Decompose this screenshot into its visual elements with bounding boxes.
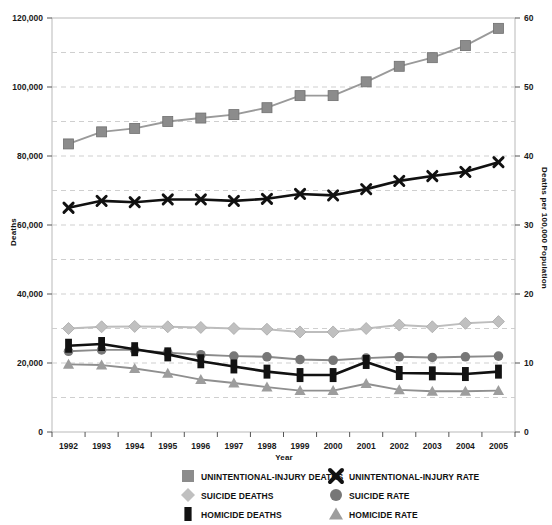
y-axis-tick-label: 0: [38, 427, 43, 437]
y-axis-tick-label: 60,000: [17, 220, 43, 230]
legend-marker-circle: [330, 489, 342, 501]
y2-axis-tick-label: 0: [524, 427, 529, 437]
data-point: [462, 367, 469, 381]
y-axis-tick-label: 80,000: [17, 151, 43, 161]
data-point: [295, 355, 305, 365]
data-point: [230, 359, 237, 373]
data-point: [493, 23, 503, 33]
legend-label: HOMICIDE DEATHS: [201, 510, 282, 520]
data-point: [97, 127, 107, 137]
y2-axis-tick-label: 60: [524, 13, 534, 23]
legend-item[interactable]: UNINTENTIONAL-INJURY DEATHS: [182, 470, 344, 482]
legend-item[interactable]: UNINTENTIONAL-INJURY RATE: [330, 470, 480, 482]
x-axis-tick-label: 1996: [191, 441, 210, 451]
y-axis-left-ticks: 020,00040,00060,00080,000100,000120,000: [12, 13, 52, 437]
y-axis-tick-label: 40,000: [17, 289, 43, 299]
y2-axis-tick-label: 50: [524, 82, 534, 92]
data-point: [330, 368, 337, 382]
legend-item[interactable]: SUICIDE DEATHS: [181, 488, 274, 502]
y-axis-tick-label: 20,000: [17, 358, 43, 368]
x-axis-tick-label: 2004: [456, 441, 475, 451]
data-point: [64, 139, 74, 149]
x-axis-tick-label: 2000: [324, 441, 343, 451]
x-axis-tick-label: 2001: [357, 441, 376, 451]
data-point: [394, 352, 404, 362]
data-point: [396, 366, 403, 380]
legend-label: SUICIDE DEATHS: [201, 491, 274, 501]
legend-label: HOMICIDE RATE: [349, 510, 418, 520]
legend-item[interactable]: HOMICIDE RATE: [329, 508, 418, 521]
x-axis-tick-label: 1993: [92, 441, 111, 451]
x-axis-tick-label: 1995: [158, 441, 177, 451]
data-point: [98, 337, 105, 351]
data-point: [197, 354, 204, 368]
legend-marker-bar: [184, 507, 191, 521]
plot-background: [52, 18, 515, 432]
y2-axis-tick-label: 20: [524, 289, 534, 299]
legend-item[interactable]: SUICIDE RATE: [330, 489, 410, 501]
data-point: [295, 91, 305, 101]
data-point: [427, 53, 437, 63]
data-point: [328, 355, 338, 365]
data-point: [229, 110, 239, 120]
legend-marker-triangle: [329, 508, 343, 520]
data-point: [131, 342, 138, 356]
data-point: [328, 91, 338, 101]
y2-axis-tick-label: 40: [524, 151, 534, 161]
legend-marker-square: [182, 470, 194, 482]
y2-axis-tick-label: 30: [524, 220, 534, 230]
data-point: [164, 347, 171, 361]
data-point: [495, 365, 502, 379]
data-point: [361, 77, 371, 87]
y-axis-right-title: Deaths per 100,000 Population: [540, 167, 549, 289]
x-axis-tick-label: 1992: [59, 441, 78, 451]
data-point: [494, 351, 504, 361]
data-point: [460, 41, 470, 51]
x-axis-title: Year: [275, 453, 293, 462]
data-point: [428, 353, 438, 363]
chart-canvas: 020,00040,00060,00080,000100,000120,000 …: [0, 0, 552, 525]
chart-legend: UNINTENTIONAL-INJURY DEATHSSUICIDE DEATH…: [181, 470, 480, 521]
data-point: [262, 352, 272, 362]
data-point: [262, 103, 272, 113]
data-point: [363, 355, 370, 369]
data-point: [297, 368, 304, 382]
data-point: [461, 352, 471, 362]
data-point: [196, 113, 206, 123]
x-axis-tick-label: 2003: [423, 441, 442, 451]
data-point: [163, 117, 173, 127]
data-point: [394, 61, 404, 71]
data-point: [264, 365, 271, 379]
x-axis-tick-label: 2002: [390, 441, 409, 451]
chart-container: 020,00040,00060,00080,000100,000120,000 …: [0, 0, 552, 525]
x-axis-tick-label: 1997: [224, 441, 243, 451]
data-point: [429, 366, 436, 380]
y-axis-tick-label: 120,000: [12, 13, 43, 23]
x-axis-tick-label: 1999: [291, 441, 310, 451]
legend-label: UNINTENTIONAL-INJURY RATE: [349, 472, 480, 482]
x-axis-tick-label: 2005: [489, 441, 508, 451]
legend-marker-diamond: [181, 488, 195, 502]
x-axis-ticks: 1992199319941995199619971998199920002001…: [52, 432, 515, 451]
legend-label: SUICIDE RATE: [349, 491, 410, 501]
data-point: [130, 123, 140, 133]
y-axis-tick-label: 100,000: [12, 82, 43, 92]
x-axis-tick-label: 1998: [258, 441, 277, 451]
y-axis-right-ticks: 0102030405060: [515, 13, 534, 437]
data-point: [65, 339, 72, 353]
y2-axis-tick-label: 10: [524, 358, 534, 368]
legend-item[interactable]: HOMICIDE DEATHS: [184, 507, 282, 521]
legend-label: UNINTENTIONAL-INJURY DEATHS: [201, 472, 344, 482]
y-axis-left-title: Deaths: [9, 218, 18, 246]
x-axis-tick-label: 1994: [125, 441, 144, 451]
